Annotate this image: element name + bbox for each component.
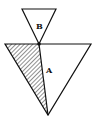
label-a: A xyxy=(45,65,53,75)
joint-point xyxy=(37,42,41,46)
diagram-canvas: B A xyxy=(0,0,98,123)
label-b: B xyxy=(36,21,43,31)
